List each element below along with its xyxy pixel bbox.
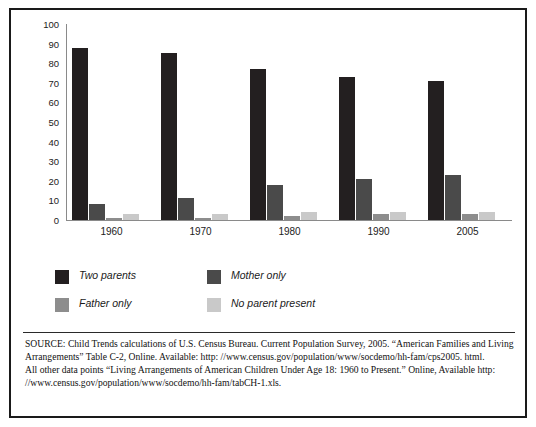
figure-container: 1009080706050403020100 19601970198019902…	[0, 0, 536, 427]
bar-group	[428, 24, 495, 220]
legend-swatch-icon	[207, 298, 221, 312]
y-tick-label: 0	[29, 216, 59, 225]
y-tick-label: 30	[29, 157, 59, 166]
legend-label: Mother only	[231, 269, 286, 281]
x-axis: 19601970198019902005	[67, 226, 512, 246]
bar-group	[72, 24, 139, 220]
y-axis: 1009080706050403020100	[29, 24, 59, 220]
y-tick-label: 100	[29, 20, 59, 29]
x-tick-label: 1970	[156, 226, 245, 237]
legend-swatch-icon	[207, 270, 221, 284]
plot-area	[67, 24, 512, 220]
x-tick-label: 1980	[245, 226, 334, 237]
bar	[339, 77, 355, 220]
y-tick-label: 60	[29, 98, 59, 107]
bar	[462, 214, 478, 220]
bar	[178, 198, 194, 220]
bar	[428, 81, 444, 220]
bar	[212, 214, 228, 220]
bar	[123, 214, 139, 220]
y-tick-label: 40	[29, 137, 59, 146]
bar	[445, 175, 461, 220]
legend-swatch-icon	[55, 270, 69, 284]
bar	[301, 212, 317, 220]
bar	[106, 218, 122, 220]
bar	[195, 218, 211, 220]
bar-chart: 1009080706050403020100 19601970198019902…	[29, 24, 513, 256]
y-tick-label: 80	[29, 59, 59, 68]
legend-label: Two parents	[79, 269, 136, 281]
y-tick-label: 50	[29, 118, 59, 127]
x-tick-label: 1960	[67, 226, 156, 237]
footnote: SOURCE: Child Trends calculations of U.S…	[25, 338, 517, 390]
x-axis-line	[66, 220, 512, 221]
chart-legend: Two parentsMother onlyFather onlyNo pare…	[55, 268, 385, 324]
x-tick-label: 2005	[423, 226, 512, 237]
bar	[284, 216, 300, 220]
footnote-line-1: SOURCE: Child Trends calculations of U.S…	[25, 338, 517, 363]
footnote-line-2: All other data points “Living Arrangemen…	[25, 364, 517, 389]
y-tick-label: 20	[29, 176, 59, 185]
bar	[250, 69, 266, 220]
figure-frame: 1009080706050403020100 19601970198019902…	[9, 8, 527, 418]
bar	[161, 53, 177, 220]
bar-group	[339, 24, 406, 220]
bar-group	[161, 24, 228, 220]
y-tick-label: 70	[29, 78, 59, 87]
bar	[267, 185, 283, 220]
bar	[373, 214, 389, 220]
legend-label: Father only	[79, 297, 132, 309]
bar-group	[250, 24, 317, 220]
bar	[390, 212, 406, 220]
bar	[89, 204, 105, 220]
y-tick-label: 10	[29, 196, 59, 205]
y-tick-label: 90	[29, 39, 59, 48]
legend-swatch-icon	[55, 298, 69, 312]
bar	[356, 179, 372, 220]
legend-label: No parent present	[231, 297, 315, 309]
footnote-divider	[23, 332, 515, 333]
bar	[479, 212, 495, 220]
bar	[72, 48, 88, 220]
x-tick-label: 1990	[334, 226, 423, 237]
